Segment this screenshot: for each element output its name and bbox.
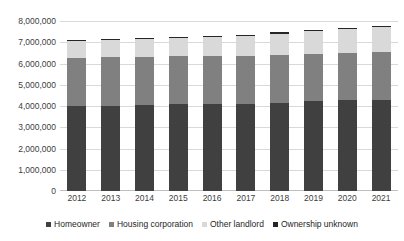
legend-label: Homeowner [54,219,100,229]
bar-segment[interactable] [203,104,222,191]
y-axis-tick-label: 2,000,000 [0,145,56,153]
chart-title [6,0,398,5]
legend-item[interactable]: Ownership unknown [273,219,358,229]
bar-segment[interactable] [203,56,222,104]
bar-2012[interactable] [67,40,86,191]
bar-2016[interactable] [203,36,222,191]
bar-segment[interactable] [372,100,391,191]
x-axis-tick-label: 2016 [195,193,229,203]
bar-segment[interactable] [169,56,188,104]
bar-segment[interactable] [338,53,357,101]
chart-legend: HomeownerHousing corporationOther landlo… [0,219,404,229]
x-axis-tick-label: 2020 [330,193,364,203]
y-axis-tick-label: 5,000,000 [0,81,56,89]
bar-segment[interactable] [270,34,289,55]
x-axis-tick-label: 2018 [263,193,297,203]
bar-2018[interactable] [270,32,289,191]
bar-segment[interactable] [304,54,323,102]
bar-segment[interactable] [169,104,188,191]
bar-segment[interactable] [270,55,289,103]
bar-2019[interactable] [304,30,323,191]
bar-segment[interactable] [67,58,86,107]
legend-swatch-icon [273,222,278,227]
bar-segment[interactable] [135,57,154,105]
legend-label: Housing corporation [117,219,193,229]
bar-segment[interactable] [236,104,255,191]
y-axis-tick-label: 0 [0,187,56,195]
bar-2017[interactable] [236,35,255,191]
legend-label: Other landlord [210,219,264,229]
bar-segment[interactable] [338,100,357,191]
bar-segment[interactable] [236,56,255,104]
bar-segment[interactable] [135,39,154,56]
legend-item[interactable]: Other landlord [202,219,264,229]
y-axis-tick-label: 4,000,000 [0,102,56,110]
y-axis-tick-label: 1,000,000 [0,166,56,174]
legend-label: Ownership unknown [281,219,358,229]
bar-2014[interactable] [135,38,154,191]
x-axis-tick-label: 2021 [364,193,398,203]
bar-segment[interactable] [270,103,289,191]
gridline [60,21,398,22]
x-axis-tick-label: 2014 [128,193,162,203]
y-axis-tick-label: 7,000,000 [0,38,56,46]
legend-swatch-icon [46,222,51,227]
bar-segment[interactable] [101,106,120,191]
bar-segment[interactable] [101,57,120,106]
legend-item[interactable]: Housing corporation [109,219,193,229]
bar-segment[interactable] [372,52,391,100]
bar-segment[interactable] [101,40,120,57]
bar-2015[interactable] [169,37,188,191]
bar-segment[interactable] [304,101,323,191]
x-axis-tick-label: 2017 [229,193,263,203]
legend-swatch-icon [202,222,207,227]
bar-2013[interactable] [101,39,120,191]
bar-segment[interactable] [338,29,357,53]
bar-2021[interactable] [372,26,391,191]
bar-segment[interactable] [236,36,255,56]
bar-segment[interactable] [67,41,86,57]
bar-segment[interactable] [304,31,323,54]
bar-segment[interactable] [372,27,391,52]
bar-2020[interactable] [338,28,357,191]
x-axis-tick-label: 2019 [297,193,331,203]
bar-segment[interactable] [67,106,86,191]
bar-segment[interactable] [135,105,154,191]
plot-area [60,21,398,191]
legend-item[interactable]: Homeowner [46,219,100,229]
legend-swatch-icon [109,222,114,227]
x-axis-tick-label: 2012 [60,193,94,203]
bar-segment[interactable] [169,38,188,56]
y-axis-tick-label: 8,000,000 [0,17,56,25]
x-axis-tick-label: 2015 [161,193,195,203]
stacked-bar-chart: 8,000,0007,000,0006,000,0005,000,0004,00… [0,0,404,241]
y-axis-tick-label: 3,000,000 [0,123,56,131]
bar-segment[interactable] [203,37,222,56]
y-axis-tick-label: 6,000,000 [0,60,56,68]
x-axis-tick-label: 2013 [94,193,128,203]
